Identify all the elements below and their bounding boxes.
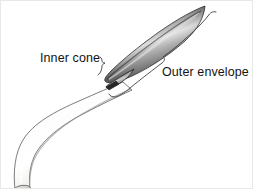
label-outer-envelope: Outer envelope — [162, 65, 249, 79]
flame-diagram-svg — [1, 1, 253, 189]
label-inner-cone: Inner cone — [40, 51, 100, 65]
burner-tube — [14, 82, 132, 189]
flame-structure-figure: Inner cone Outer envelope — [0, 0, 253, 189]
burner-tube-body — [14, 82, 132, 189]
